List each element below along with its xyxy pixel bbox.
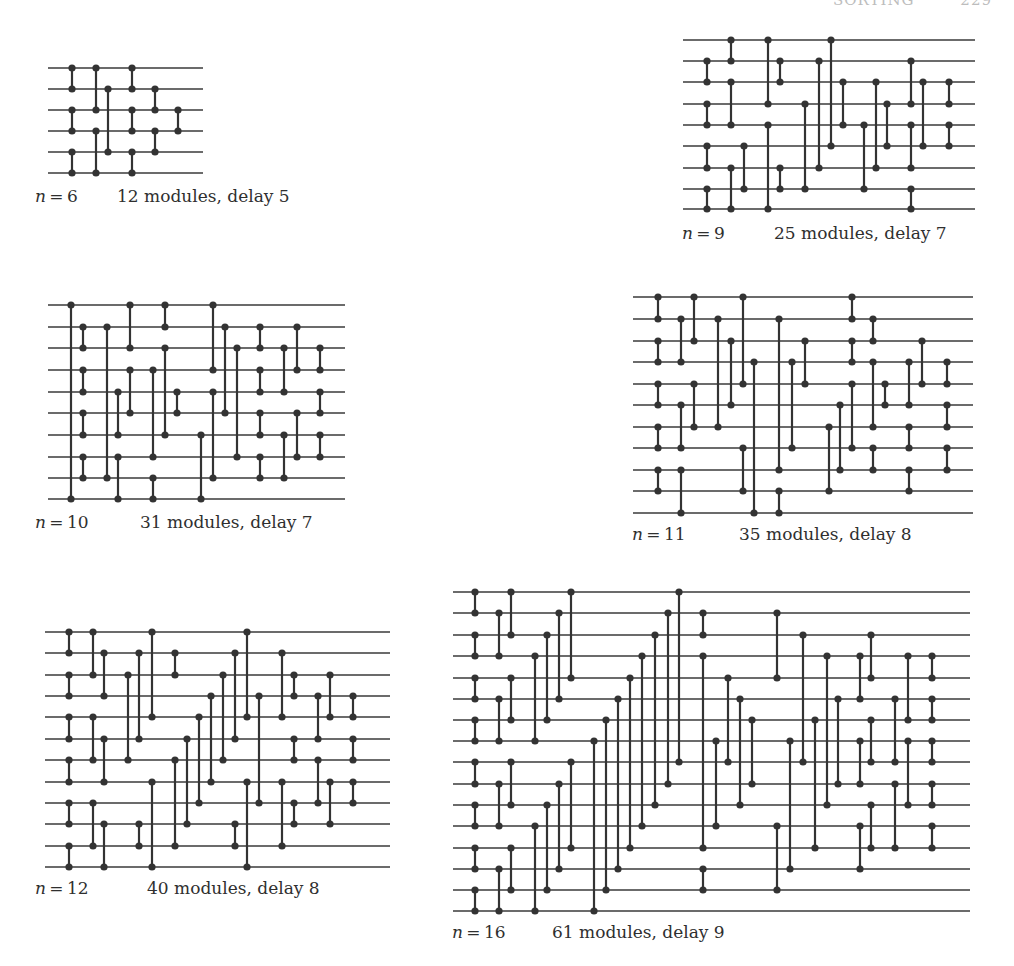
comparator-node [928, 716, 935, 723]
comparator-node [928, 758, 935, 765]
comparator-node [788, 444, 795, 451]
comparator-node [776, 78, 783, 85]
comparator-node [856, 695, 863, 702]
comparator-node [100, 649, 107, 656]
comparator-node [928, 801, 935, 808]
comparator-module [654, 337, 661, 365]
comparator-module [869, 315, 876, 344]
comparator-node [148, 863, 155, 870]
comparator-node [748, 716, 755, 723]
comparator-node [775, 466, 782, 473]
comparator-node [860, 185, 867, 192]
comparator-node [555, 865, 562, 872]
comparator-node [654, 466, 661, 473]
comparator-module [231, 820, 238, 849]
comparator-node [79, 474, 86, 481]
comparator-module [471, 758, 478, 787]
comparator-module [256, 409, 263, 438]
comparator-node [825, 487, 832, 494]
comparator-node [233, 453, 240, 460]
comparator-node [507, 674, 514, 681]
comparator-node [471, 631, 478, 638]
comparator-node [67, 301, 74, 308]
comparator-node [79, 366, 86, 373]
comparator-module [471, 674, 478, 702]
comparator-node [907, 205, 914, 212]
comparator-node [495, 652, 502, 659]
comparator-node [349, 778, 356, 785]
comparator-node [928, 695, 935, 702]
comparator-node [495, 907, 502, 914]
comparator-node [739, 380, 746, 387]
comparator-node [65, 692, 72, 699]
comparator-node [173, 388, 180, 395]
comparator-node [773, 609, 780, 616]
comparator-node [776, 164, 783, 171]
network-caption-n12: n = 1240 modules, delay 8 [35, 878, 89, 898]
comparator-node [727, 57, 734, 64]
comparator-node [943, 444, 950, 451]
comparator-node [677, 466, 684, 473]
comparator-node [290, 756, 297, 763]
comparator-node [881, 401, 888, 408]
comparator-node [79, 431, 86, 438]
comparator-node [690, 293, 697, 300]
comparator-node [928, 822, 935, 829]
comparator-node [79, 409, 86, 416]
comparator-node [555, 780, 562, 787]
comparator-node [904, 716, 911, 723]
comparator-node [197, 495, 204, 502]
comparator-node [314, 692, 321, 699]
comparator-module [290, 799, 297, 827]
comparator-node [836, 401, 843, 408]
comparator-node [945, 100, 952, 107]
comparator-node [750, 509, 757, 516]
comparator-node [471, 609, 478, 616]
comparator-node [67, 495, 74, 502]
comparator-node [848, 380, 855, 387]
comparator-module [471, 886, 478, 914]
comparator-node [834, 780, 841, 787]
comparator-node [349, 756, 356, 763]
comparator-node [471, 758, 478, 765]
comparator-node [149, 453, 156, 460]
comparator-node [326, 820, 333, 827]
comparator-module [825, 423, 832, 494]
comparator-node [79, 323, 86, 330]
comparator-node [815, 164, 822, 171]
comparator-node [834, 695, 841, 702]
comparator-node [128, 85, 135, 92]
comparator-module [727, 337, 734, 408]
comparator-node [699, 886, 706, 893]
comparator-module [904, 737, 911, 808]
comparator-node [904, 737, 911, 744]
comparator-node [278, 778, 285, 785]
comparator-node [638, 652, 645, 659]
comparator-node [773, 822, 780, 829]
comparator-node [773, 674, 780, 681]
comparator-module [278, 649, 285, 720]
comparator-node [209, 366, 216, 373]
comparator-module [65, 628, 72, 656]
sorting-network-n11 [633, 293, 973, 516]
comparator-node [68, 148, 75, 155]
comparator-node [471, 907, 478, 914]
comparator-module [699, 609, 706, 638]
comparator-module [776, 57, 783, 85]
comparator-node [727, 164, 734, 171]
comparator-node [654, 444, 661, 451]
comparator-node [703, 57, 710, 64]
comparator-module [836, 401, 843, 473]
comparator-module [764, 36, 771, 107]
comparator-node [171, 842, 178, 849]
comparator-node [739, 487, 746, 494]
comparator-node [945, 121, 952, 128]
comparator-module [654, 466, 661, 494]
network-size-label: n = 16 [452, 922, 506, 942]
comparator-module [471, 631, 478, 659]
comparator-node [161, 323, 168, 330]
comparator-node [764, 36, 771, 43]
comparator-node [231, 842, 238, 849]
comparator-node [699, 652, 706, 659]
comparator-node [727, 205, 734, 212]
